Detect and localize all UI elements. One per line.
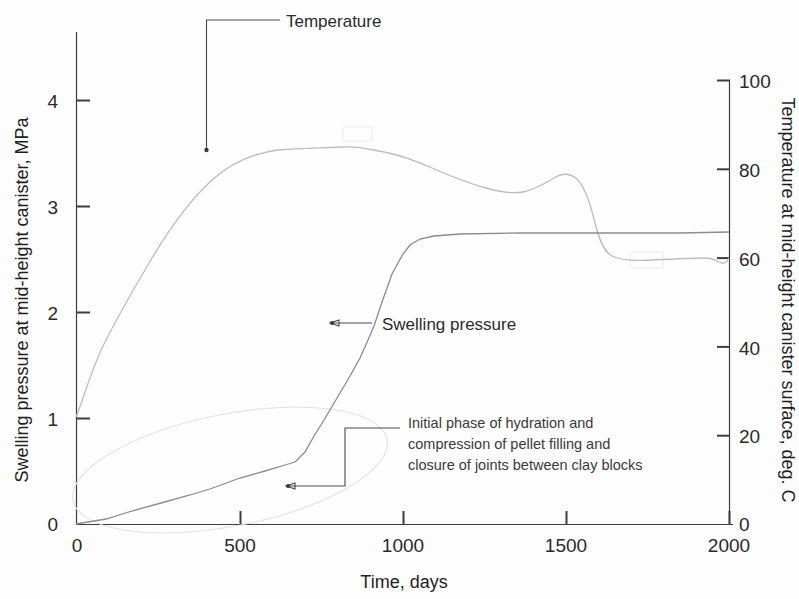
series-swelling-pressure xyxy=(76,232,729,524)
right-tick-label-60: 60 xyxy=(739,249,760,270)
initial-phase-endpoint xyxy=(286,484,290,488)
ghost-ellipse-lower xyxy=(62,384,397,555)
right-axis-title: Temperature at mid-height canister surfa… xyxy=(778,97,798,502)
bottom-tick-label-2000: 2000 xyxy=(708,535,750,556)
bottom-tick-label-1000: 1000 xyxy=(382,535,424,556)
swelling-leader-endpoint xyxy=(330,321,334,325)
left-axis-title: Swelling pressure at mid-height canister… xyxy=(12,116,32,482)
series-temperature xyxy=(76,147,729,417)
bottom-axis-title: Time, days xyxy=(360,572,447,592)
annotation-swelling-pressure: Swelling pressure xyxy=(330,315,516,334)
right-tick-label-100: 100 xyxy=(739,71,771,92)
left-tick-label-1: 1 xyxy=(47,409,58,430)
left-tick-label-4: 4 xyxy=(47,91,58,112)
initial-phase-line-3: closure of joints between clay blocks xyxy=(408,457,643,473)
bottom-tick-label-1500: 1500 xyxy=(545,535,587,556)
initial-phase-line-1: Initial phase of hydration and xyxy=(408,415,593,431)
scan-artifacts xyxy=(62,127,663,556)
axis-bottom: 0 500 1000 1500 2000 Time, days xyxy=(72,511,750,592)
ghost-artifact-upper xyxy=(343,127,372,141)
right-tick-label-0: 0 xyxy=(739,514,750,535)
left-tick-label-2: 2 xyxy=(47,303,58,324)
chart-canvas: 4 3 2 1 0 Swelling pressure at mid-heigh… xyxy=(0,0,799,599)
right-tick-label-20: 20 xyxy=(739,426,760,447)
temperature-curve xyxy=(76,147,729,417)
bottom-tick-label-0: 0 xyxy=(72,535,83,556)
bottom-tick-label-500: 500 xyxy=(224,535,256,556)
temperature-leader-endpoint xyxy=(204,148,208,152)
axis-right: 100 80 60 40 20 0 Temperature at mid-hei… xyxy=(717,71,798,535)
swelling-pressure-curve xyxy=(76,232,729,524)
left-tick-label-3: 3 xyxy=(47,197,58,218)
chart-figure: 4 3 2 1 0 Swelling pressure at mid-heigh… xyxy=(0,0,799,599)
right-tick-label-40: 40 xyxy=(739,338,760,359)
annotation-temperature: Temperature xyxy=(204,12,381,152)
temperature-annotation-label: Temperature xyxy=(286,12,381,31)
swelling-annotation-label: Swelling pressure xyxy=(382,315,516,334)
axis-left: 4 3 2 1 0 Swelling pressure at mid-heigh… xyxy=(12,32,90,535)
right-tick-label-80: 80 xyxy=(739,160,760,181)
initial-phase-line-2: compression of pellet filling and xyxy=(408,436,610,452)
annotation-initial-phase: Initial phase of hydration and compressi… xyxy=(286,415,643,489)
left-tick-label-0: 0 xyxy=(47,514,58,535)
